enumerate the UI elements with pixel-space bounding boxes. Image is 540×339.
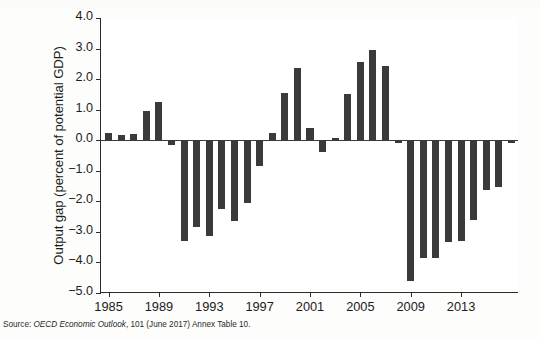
y-tick-mark xyxy=(96,201,101,202)
x-tick-label: 2001 xyxy=(284,299,336,314)
bar-1999 xyxy=(281,93,288,140)
bar-2007 xyxy=(382,66,389,140)
bar-1990 xyxy=(168,140,175,145)
x-tick-mark xyxy=(360,292,361,297)
bar-1996 xyxy=(244,140,251,203)
x-tick-label: 2013 xyxy=(435,299,487,314)
plot-background xyxy=(101,18,518,292)
bar-1995 xyxy=(231,140,238,221)
bar-2009 xyxy=(407,140,414,281)
x-tick-mark xyxy=(109,292,110,297)
source-note: Source: OECD Economic Outlook, 101 (June… xyxy=(3,320,250,329)
bar-1986 xyxy=(118,135,125,140)
x-tick-label: 2009 xyxy=(385,299,437,314)
bar-2010 xyxy=(420,140,427,258)
bar-1992 xyxy=(193,140,200,227)
y-tick-mark xyxy=(96,18,101,19)
source-publication: OECD Economic Outlook xyxy=(34,320,126,329)
y-tick-label: −3.0 xyxy=(47,223,93,237)
y-tick-mark xyxy=(96,293,101,294)
bar-1985 xyxy=(105,133,112,141)
bar-2014 xyxy=(470,140,477,219)
bar-2005 xyxy=(357,62,364,141)
bar-2008 xyxy=(395,140,402,142)
y-tick-label: 4.0 xyxy=(47,9,93,23)
bar-1988 xyxy=(143,111,150,140)
x-tick-mark xyxy=(159,292,160,297)
x-tick-label: 1993 xyxy=(183,299,235,314)
y-tick-label: 3.0 xyxy=(47,40,93,54)
x-tick-label: 1989 xyxy=(133,299,185,314)
figure-container: Output gap (percent of potential GDP) 4.… xyxy=(0,0,540,339)
x-tick-mark xyxy=(310,292,311,297)
plot-area: 4.03.02.01.00.0−1.0−2.0−3.0−4.0−5.0 1985… xyxy=(100,18,518,293)
x-tick-label: 2005 xyxy=(334,299,386,314)
x-tick-mark xyxy=(411,292,412,297)
bar-2000 xyxy=(294,68,301,140)
x-tick-label: 1985 xyxy=(83,299,135,314)
bar-2013 xyxy=(458,140,465,241)
bar-1998 xyxy=(269,133,276,141)
bar-1989 xyxy=(155,102,162,141)
bar-2011 xyxy=(432,140,439,258)
y-tick-label: 0.0 xyxy=(47,131,93,145)
source-details: , 101 (June 2017) Annex Table 10. xyxy=(126,320,251,329)
bar-2012 xyxy=(445,140,452,242)
y-tick-label: −5.0 xyxy=(47,284,93,298)
bar-2003 xyxy=(332,138,339,140)
y-tick-mark xyxy=(96,171,101,172)
y-tick-label: −2.0 xyxy=(47,192,93,206)
y-tick-mark xyxy=(96,232,101,233)
y-tick-label: 2.0 xyxy=(47,70,93,84)
zero-baseline xyxy=(101,140,518,141)
bar-2001 xyxy=(306,128,313,141)
y-tick-mark xyxy=(96,49,101,50)
x-tick-mark xyxy=(461,292,462,297)
cropped-caption-sliver xyxy=(0,0,540,9)
bar-1991 xyxy=(181,140,188,241)
y-tick-label: −4.0 xyxy=(47,253,93,267)
y-tick-mark xyxy=(96,262,101,263)
bar-2015 xyxy=(483,140,490,190)
x-tick-label: 1997 xyxy=(234,299,286,314)
bar-2004 xyxy=(344,94,351,140)
bar-2017 xyxy=(508,140,515,143)
x-tick-mark xyxy=(260,292,261,297)
source-prefix: Source: xyxy=(3,320,31,329)
y-tick-label: 1.0 xyxy=(47,101,93,115)
x-tick-mark xyxy=(209,292,210,297)
y-tick-label: −1.0 xyxy=(47,162,93,176)
bar-2016 xyxy=(495,140,502,187)
bar-1993 xyxy=(206,140,213,236)
bar-2006 xyxy=(369,50,376,140)
bar-1994 xyxy=(218,140,225,209)
bar-1997 xyxy=(256,140,263,166)
bar-1987 xyxy=(130,134,137,140)
y-tick-mark xyxy=(96,79,101,80)
y-tick-mark xyxy=(96,110,101,111)
bar-2002 xyxy=(319,140,326,152)
